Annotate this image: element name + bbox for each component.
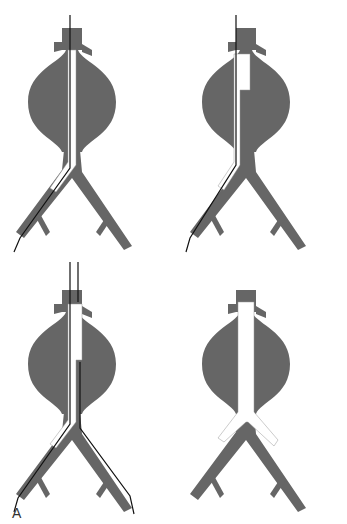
aneurysm-diagram bbox=[0, 262, 174, 524]
figure-label: A bbox=[12, 505, 21, 521]
aneurysm-diagram bbox=[174, 0, 347, 262]
aneurysm-diagram bbox=[174, 262, 347, 524]
panel-step-1 bbox=[0, 0, 174, 262]
panel-step-2 bbox=[174, 0, 347, 262]
panel-step-3 bbox=[0, 262, 174, 524]
aneurysm-diagram bbox=[0, 0, 174, 262]
panel-step-4 bbox=[174, 262, 347, 524]
